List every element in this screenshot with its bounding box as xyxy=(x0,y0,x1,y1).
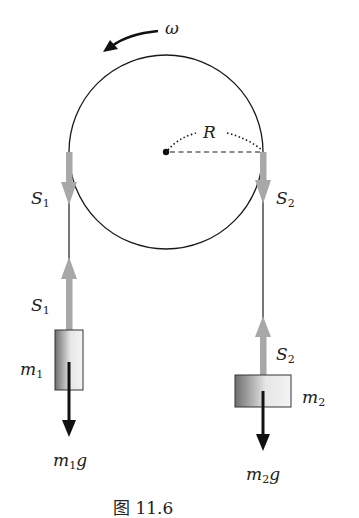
s2-bottom-label: S2 xyxy=(276,346,295,365)
tension-arrow-s2-top xyxy=(255,152,271,204)
radius-label: R xyxy=(203,124,216,141)
s1-top-label: S1 xyxy=(31,190,50,209)
m1g-label: m1g xyxy=(53,452,87,471)
m2g-label: m2g xyxy=(246,466,280,485)
s1-bottom-label: S1 xyxy=(31,297,50,316)
figure-caption: 图 11.6 xyxy=(113,500,173,517)
tension-arrow-s2-bottom xyxy=(255,316,271,375)
radius-dotted-arc-right xyxy=(227,133,262,150)
m2-label: m2 xyxy=(302,389,325,408)
tension-arrow-s1-bottom xyxy=(61,257,77,331)
rotation-arrow-icon xyxy=(103,31,158,52)
tension-arrow-s1-top xyxy=(61,152,77,205)
radius-dotted-arc-left xyxy=(168,133,196,150)
omega-label: ω xyxy=(165,20,179,37)
s2-top-label: S2 xyxy=(276,190,295,209)
m1-label: m1 xyxy=(20,361,43,380)
